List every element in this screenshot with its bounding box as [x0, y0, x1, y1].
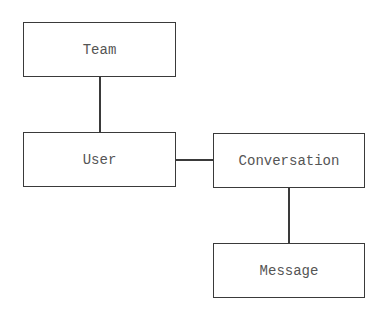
- node-team: Team: [23, 22, 176, 77]
- node-user-label: User: [83, 152, 117, 168]
- diagram-canvas: Team User Conversation Message: [0, 0, 386, 315]
- node-message-label: Message: [260, 263, 319, 279]
- node-conversation-label: Conversation: [239, 153, 340, 169]
- edge-conversation-message: [288, 188, 290, 243]
- edge-team-user: [99, 77, 101, 132]
- edge-user-conversation: [176, 159, 213, 161]
- node-user: User: [23, 132, 176, 187]
- node-team-label: Team: [83, 42, 117, 58]
- node-conversation: Conversation: [213, 133, 365, 188]
- node-message: Message: [213, 243, 365, 298]
